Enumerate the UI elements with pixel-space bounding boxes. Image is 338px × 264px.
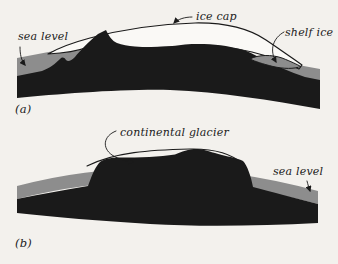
ice-cap-label: ice cap	[196, 11, 237, 23]
ice-cap-arrow	[174, 17, 192, 23]
sea-level-label-a: sea level	[18, 31, 68, 43]
glacier-cross-section-figure: sea level ice cap shelf ice (a) continen…	[0, 0, 338, 264]
panel-b-index-label: (b)	[15, 237, 32, 249]
panel-b	[17, 131, 318, 226]
shelf-ice-label: shelf ice	[285, 27, 333, 39]
panel-a-index-label: (a)	[15, 103, 31, 115]
continental-glacier-label: continental glacier	[120, 127, 229, 139]
sea-level-label-b: sea level	[273, 166, 323, 178]
